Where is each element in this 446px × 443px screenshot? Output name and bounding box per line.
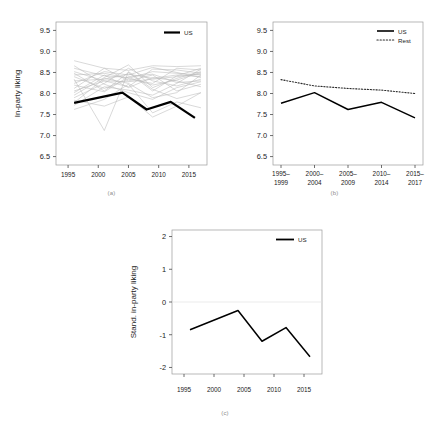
x-tick-label-b-bottom: 2017 bbox=[408, 179, 423, 186]
x-tick-label-b-top: 2000– bbox=[306, 170, 324, 177]
y-tick-label-c: -2 bbox=[159, 363, 166, 372]
series-line-other bbox=[74, 68, 201, 97]
panel-a-caption: (a) bbox=[0, 190, 223, 196]
y-tick-label-a: 6.5 bbox=[40, 152, 50, 161]
y-tick-label-c: 1 bbox=[162, 265, 166, 274]
x-tick-label-c: 2005 bbox=[237, 386, 252, 393]
chart-panel-b: 6.57.07.58.08.59.09.51995–19992000–20042… bbox=[223, 0, 446, 192]
x-tick-label-c: 2010 bbox=[267, 386, 282, 393]
panel-c: -2-101219952000200520102015Stand. in-par… bbox=[100, 212, 350, 427]
y-axis-title-a: In-party liking bbox=[13, 70, 22, 118]
legend-label-us-b: US bbox=[398, 28, 407, 35]
chart-panel-a: 6.57.07.58.08.59.09.51995200020052010201… bbox=[0, 0, 223, 192]
y-tick-label-a: 7.0 bbox=[40, 131, 50, 140]
series-line-other bbox=[74, 93, 201, 117]
x-tick-label-b-bottom: 1999 bbox=[274, 179, 289, 186]
y-axis-title-c: Stand. in-party liking bbox=[129, 266, 138, 338]
panel-b-caption: (b) bbox=[223, 190, 446, 196]
y-tick-label-b: 9.5 bbox=[257, 26, 267, 35]
x-tick-label-b-top: 2015– bbox=[406, 170, 424, 177]
y-tick-label-b: 8.0 bbox=[257, 89, 267, 98]
x-tick-label-b-bottom: 2009 bbox=[341, 179, 356, 186]
y-tick-label-b: 8.5 bbox=[257, 68, 267, 77]
x-tick-label-c: 2000 bbox=[207, 386, 222, 393]
x-tick-label-a: 1995 bbox=[61, 171, 76, 178]
series-line-other bbox=[74, 61, 201, 71]
series-line-us-c bbox=[190, 311, 310, 357]
x-tick-label-b-top: 2010– bbox=[373, 170, 391, 177]
legend-label-rest-b: Rest bbox=[398, 37, 411, 44]
x-tick-label-b-bottom: 2004 bbox=[307, 179, 322, 186]
x-tick-label-b-top: 2005– bbox=[339, 170, 357, 177]
legend-box-b bbox=[373, 25, 421, 46]
y-tick-label-a: 7.5 bbox=[40, 110, 50, 119]
legend-label-us-a: US bbox=[184, 29, 193, 36]
x-tick-label-a: 2010 bbox=[152, 171, 167, 178]
x-tick-label-b-bottom: 2014 bbox=[374, 179, 389, 186]
y-tick-label-a: 8.5 bbox=[40, 68, 50, 77]
x-tick-label-c: 2015 bbox=[297, 386, 312, 393]
y-tick-label-b: 9.0 bbox=[257, 47, 267, 56]
x-tick-label-c: 1995 bbox=[177, 386, 192, 393]
y-tick-label-c: -1 bbox=[159, 331, 166, 340]
series-line-us-b bbox=[281, 93, 415, 118]
y-tick-label-b: 6.5 bbox=[257, 152, 267, 161]
x-tick-label-a: 2000 bbox=[91, 171, 106, 178]
y-tick-label-c: 0 bbox=[162, 298, 166, 307]
chart-panel-c: -2-101219952000200520102015Stand. in-par… bbox=[100, 212, 350, 412]
y-tick-label-a: 9.5 bbox=[40, 26, 50, 35]
legend-label-us-c: US bbox=[298, 236, 307, 243]
x-tick-label-b-top: 1995– bbox=[272, 170, 290, 177]
y-tick-label-c: 2 bbox=[162, 232, 166, 241]
panel-b: 6.57.07.58.08.59.09.51995–19992000–20042… bbox=[223, 0, 446, 210]
y-tick-label-a: 9.0 bbox=[40, 47, 50, 56]
x-tick-label-a: 2005 bbox=[121, 171, 136, 178]
series-line-rest bbox=[281, 80, 415, 94]
panel-c-caption: (c) bbox=[100, 410, 350, 416]
y-tick-label-b: 7.0 bbox=[257, 131, 267, 140]
series-line-us bbox=[74, 93, 195, 118]
y-tick-label-b: 7.5 bbox=[257, 110, 267, 119]
x-tick-label-a: 2015 bbox=[182, 171, 197, 178]
panel-a: 6.57.07.58.08.59.09.51995200020052010201… bbox=[0, 0, 223, 210]
y-tick-label-a: 8.0 bbox=[40, 89, 50, 98]
